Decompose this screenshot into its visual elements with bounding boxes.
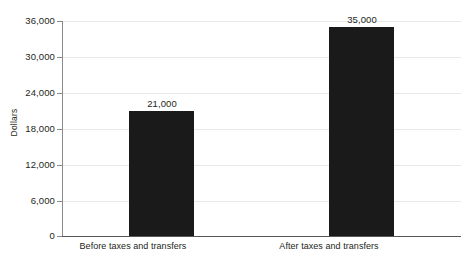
tick-mark-30000: [57, 57, 62, 58]
tick-mark-18000: [57, 129, 62, 130]
gridline-12000: [62, 165, 461, 166]
tick-mark-36000: [57, 21, 62, 22]
bar-before-taxes-and-transfers: [129, 111, 194, 237]
y-tick-label-30000: 30,000: [3, 52, 55, 62]
x-axis-line: [62, 236, 461, 237]
gridline-18000: [62, 129, 461, 130]
y-tick-label-0: 0: [3, 231, 55, 241]
gridline-6000: [62, 201, 461, 202]
bar-value-label-before-taxes-and-transfers: 21,000: [115, 99, 210, 109]
gridline-30000: [62, 57, 461, 58]
y-tick-label-6000: 6,000: [3, 196, 55, 206]
y-axis-title: Dollars: [10, 93, 19, 153]
tick-mark-24000: [57, 93, 62, 94]
category-label-before-taxes-and-transfers: Before taxes and transfers: [68, 241, 198, 252]
bar-value-label-after-taxes-and-transfers: 35,000: [315, 15, 410, 25]
y-tick-label-36000: 36,000: [3, 16, 55, 26]
tick-mark-6000: [57, 201, 62, 202]
y-axis-line: [62, 21, 63, 237]
bar-chart: 36,000 30,000 24,000 18,000 12,000 6,000…: [0, 0, 471, 261]
category-label-after-taxes-and-transfers: After taxes and transfers: [264, 241, 394, 252]
bar-after-taxes-and-transfers: [329, 27, 394, 237]
y-tick-label-12000: 12,000: [3, 160, 55, 170]
plot-area: [62, 21, 461, 237]
tick-mark-0: [57, 236, 62, 237]
gridline-24000: [62, 93, 461, 94]
tick-mark-12000: [57, 165, 62, 166]
